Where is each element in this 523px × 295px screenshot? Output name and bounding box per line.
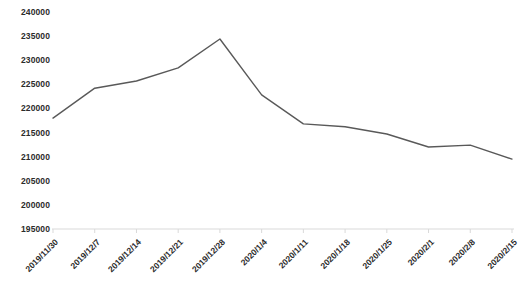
- x-axis-tick-labels: 2019/11/302019/12/72019/12/142019/12/212…: [0, 0, 523, 295]
- line-chart: 2400002350002300002250002200002150002100…: [0, 0, 523, 295]
- x-axis-tick-label: 2020/2/15: [470, 237, 519, 286]
